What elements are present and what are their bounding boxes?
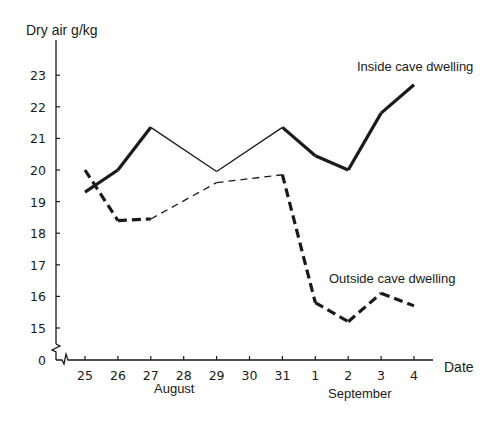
y-tick-label: 15: [30, 321, 46, 336]
series-segment: [151, 183, 217, 219]
series-segment: [217, 175, 283, 183]
series-segment: [151, 127, 217, 171]
y-tick-label: 21: [30, 131, 46, 146]
inside-cave-dwelling-line: [85, 85, 414, 192]
y-tick-label: 0: [38, 353, 46, 368]
y-tick-label: 16: [30, 289, 46, 304]
x-axis-title: Date: [444, 359, 474, 375]
x-tick-label: 1: [311, 368, 319, 383]
y-axis-title: Dry air g/kg: [26, 22, 98, 38]
series-segment: [85, 170, 118, 192]
y-tick-label: 19: [30, 195, 46, 210]
month-label-september: September: [328, 386, 392, 401]
series-segment: [217, 127, 283, 171]
month-label-august: August: [154, 381, 195, 396]
y-tick-label: 20: [30, 163, 46, 178]
series-segment: [118, 127, 151, 170]
x-tick-label: 31: [274, 368, 290, 383]
x-tick-label: 3: [377, 368, 385, 383]
x-tick-label: 29: [209, 368, 225, 383]
y-tick-label: 23: [30, 68, 46, 83]
x-tick-label: 2: [344, 368, 352, 383]
series-segment: [118, 219, 151, 221]
x-tick-label: 25: [77, 368, 93, 383]
series-segment: [348, 113, 381, 170]
series-segment: [315, 156, 348, 170]
y-axis: [52, 40, 60, 360]
series-segment: [282, 127, 315, 155]
x-tick-label: 4: [410, 368, 418, 383]
dry-air-line-chart: Dry air g/kg Date 0151617181920212223 25…: [0, 0, 502, 428]
series-segment: [85, 170, 118, 221]
y-tick-label: 18: [30, 226, 46, 241]
outside-series-label: Outside cave dwelling: [329, 271, 455, 286]
x-axis: [56, 354, 433, 364]
x-tick-label: 26: [110, 368, 126, 383]
inside-series-label: Inside cave dwelling: [357, 59, 473, 74]
series-segment: [282, 175, 315, 303]
y-tick-label: 22: [30, 100, 46, 115]
series-segment: [381, 293, 414, 306]
outside-cave-dwelling-line: [85, 170, 414, 322]
series-segment: [381, 85, 414, 113]
series-segment: [315, 303, 348, 322]
y-tick-label: 17: [30, 258, 46, 273]
series-segment: [348, 293, 381, 321]
x-tick-label: 30: [242, 368, 258, 383]
